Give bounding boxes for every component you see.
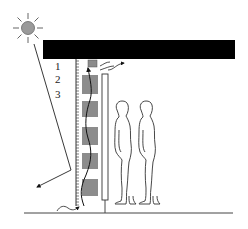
exterior-wall <box>76 59 79 206</box>
panel-3 <box>82 127 98 145</box>
panel-5 <box>82 179 98 196</box>
diagram-svg: 1 2 3 <box>0 0 248 229</box>
label-layer-3: 3 <box>55 88 61 100</box>
vent-box <box>88 60 97 67</box>
exhaust-air-arrows <box>100 62 124 70</box>
sun-icon <box>13 13 43 43</box>
label-layer-2: 2 <box>55 73 61 85</box>
column <box>102 74 108 213</box>
sun-ray-arrow <box>34 44 71 187</box>
panel-2 <box>82 101 98 117</box>
inflow-air-arrow <box>57 206 79 211</box>
person-1 <box>115 101 136 204</box>
label-layer-1: 1 <box>55 60 61 72</box>
person-2 <box>139 101 160 204</box>
diagram-canvas: 1 2 3 <box>0 0 248 229</box>
roof-slab <box>43 40 235 59</box>
